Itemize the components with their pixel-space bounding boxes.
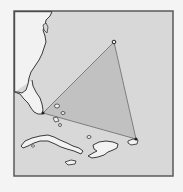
bermuda-marker bbox=[112, 40, 116, 44]
bermuda-triangle-map bbox=[0, 0, 183, 192]
bahamas-island bbox=[59, 124, 62, 127]
isle-of-youth bbox=[32, 145, 35, 147]
bahamas-island bbox=[55, 104, 60, 108]
puerto-rico-marker bbox=[135, 138, 138, 141]
bahamas-island bbox=[87, 136, 91, 139]
bahamas-island bbox=[61, 112, 65, 115]
miami-marker bbox=[42, 112, 45, 115]
